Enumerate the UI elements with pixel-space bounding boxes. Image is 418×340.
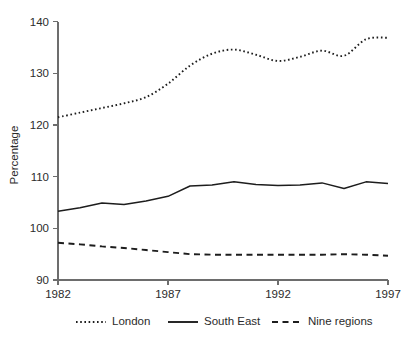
y-tick-label: 100 xyxy=(30,222,49,234)
x-tick-label: 1987 xyxy=(155,288,181,300)
chart-legend: London South East Nine regions xyxy=(76,315,373,327)
x-tick-group: 1982198719921997 xyxy=(45,280,401,300)
series-line-london xyxy=(58,37,388,117)
x-axis: 1982198719921997 xyxy=(45,280,401,300)
legend-label-south-east: South East xyxy=(204,315,261,327)
y-axis: 90100110120130140 xyxy=(30,16,58,286)
legend-label-nine-regions: Nine regions xyxy=(308,315,373,327)
y-tick-label: 140 xyxy=(30,16,49,28)
y-tick-group: 90100110120130140 xyxy=(30,16,58,286)
x-tick-label: 1982 xyxy=(45,288,71,300)
y-axis-title: Percentage xyxy=(8,126,20,185)
y-tick-label: 110 xyxy=(31,171,49,183)
x-tick-label: 1997 xyxy=(375,288,401,300)
y-tick-label: 120 xyxy=(30,119,49,131)
series-group xyxy=(58,37,388,255)
y-tick-label: 90 xyxy=(36,274,49,286)
series-line-south-east xyxy=(58,182,388,211)
line-chart: 90100110120130140 1982198719921997 Perce… xyxy=(0,0,418,340)
legend-label-london: London xyxy=(112,315,150,327)
y-tick-label: 130 xyxy=(30,67,49,79)
chart-figure: 90100110120130140 1982198719921997 Perce… xyxy=(0,0,418,340)
x-tick-label: 1992 xyxy=(265,288,291,300)
series-line-nine-regions xyxy=(58,243,388,256)
